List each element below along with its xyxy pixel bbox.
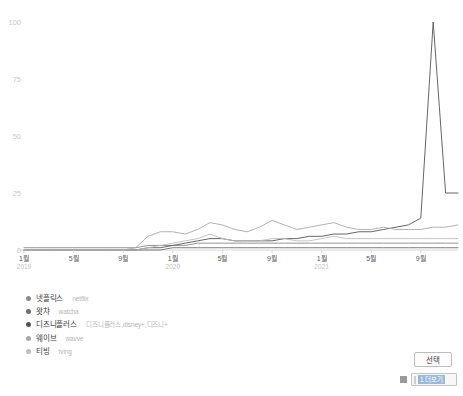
y-tick-label: 25 xyxy=(13,189,21,198)
legend-keywords: 디즈니플러스,disney+,디즈니+ xyxy=(86,318,168,331)
x-tick-month-label: 1월 xyxy=(19,254,29,262)
x-tick-month-label: 9월 xyxy=(267,254,277,262)
select-button[interactable]: 선택 xyxy=(414,352,452,367)
series-line xyxy=(24,220,458,250)
trend-chart: 0255075100 1월20195월9월1월20205월9월1월20215월9… xyxy=(0,0,463,280)
legend-item[interactable]: 디즈니플러스디즈니플러스,disney+,디즈니+ xyxy=(26,318,326,331)
legend-keywords: netflix xyxy=(72,292,88,305)
legend-item[interactable]: 왓챠watcha xyxy=(26,305,326,318)
keyword-value: 1 더보기 xyxy=(418,375,445,384)
y-tick-label: 100 xyxy=(8,18,21,27)
legend-color-dot xyxy=(26,349,31,354)
series-line xyxy=(24,243,458,248)
series-lines xyxy=(24,22,458,250)
x-tick-month-label: 5월 xyxy=(69,254,79,262)
input-caret xyxy=(414,376,416,384)
x-tick-month-label: 5월 xyxy=(366,254,376,262)
x-tick-month-label: 1월 xyxy=(168,254,178,262)
grid-icon xyxy=(400,376,407,383)
y-axis-ticks: 0255075100 xyxy=(8,18,21,255)
x-tick-month-label: 1월 xyxy=(317,254,327,262)
legend-series-name: 디즈니플러스 xyxy=(36,318,77,331)
chart-page: 0255075100 1월20195월9월1월20205월9월1월20215월9… xyxy=(0,0,463,396)
legend-series-name: 웨이브 xyxy=(36,332,56,345)
series-line xyxy=(24,22,458,250)
chart-canvas[interactable]: 0255075100 1월20195월9월1월20205월9월1월20215월9… xyxy=(0,0,463,280)
keyword-input[interactable]: 1 더보기 xyxy=(411,373,457,386)
x-tick-month-label: 9월 xyxy=(416,254,426,262)
x-tick-year-label: 2021 xyxy=(314,263,329,270)
legend-keywords: watcha xyxy=(59,305,79,318)
x-tick-month-label: 9월 xyxy=(118,254,128,262)
legend-keywords: wavve xyxy=(65,332,83,345)
legend-color-dot xyxy=(26,336,31,341)
legend-item[interactable]: 넷플릭스netflix xyxy=(26,292,326,305)
x-tick-month-label: 5월 xyxy=(217,254,227,262)
legend-series-name: 왓챠 xyxy=(36,305,50,318)
legend-color-dot xyxy=(26,322,31,327)
y-tick-label: 75 xyxy=(13,75,21,84)
x-tick-year-label: 2019 xyxy=(17,263,32,270)
legend-item[interactable]: 티빙tving xyxy=(26,345,326,358)
legend-series-name: 티빙 xyxy=(36,345,50,358)
keyword-combo-row: 1 더보기 xyxy=(400,372,457,387)
x-tick-year-label: 2020 xyxy=(166,263,181,270)
legend-series-name: 넷플릭스 xyxy=(36,292,63,305)
legend-color-dot xyxy=(26,296,31,301)
legend-item[interactable]: 웨이브wavve xyxy=(26,332,326,345)
legend-color-dot xyxy=(26,309,31,314)
chart-legend: 넷플릭스netflix왓챠watcha디즈니플러스디즈니플러스,disney+,… xyxy=(26,292,326,358)
y-tick-label: 50 xyxy=(13,132,21,141)
legend-keywords: tving xyxy=(59,345,72,358)
x-axis-ticks: 1월20195월9월1월20205월9월1월20215월9월 xyxy=(17,250,426,270)
